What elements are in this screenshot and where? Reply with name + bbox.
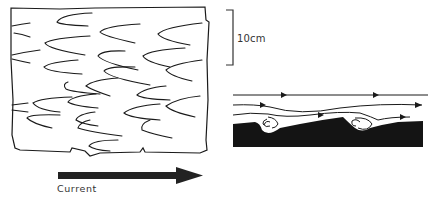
- plan-view-block: [11, 7, 209, 156]
- flow-lines: [233, 95, 428, 120]
- scale-bar-label: 10cm: [237, 33, 266, 44]
- scale-bar: [226, 10, 233, 65]
- eddy-right: [352, 118, 372, 129]
- current-label: Current: [57, 183, 97, 194]
- section-bed: [233, 117, 423, 147]
- flute-marks: [12, 13, 202, 151]
- figure-canvas: [0, 0, 439, 206]
- current-arrow: [58, 167, 203, 184]
- eddy-left: [263, 117, 278, 128]
